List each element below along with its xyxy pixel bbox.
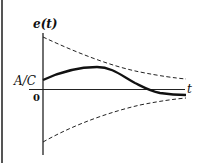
x-axis-label: t: [187, 82, 192, 96]
diagram-frame: e(t) A/C 0 t: [0, 0, 205, 163]
lower-envelope-curve: [43, 98, 186, 142]
response-curve: [43, 67, 186, 95]
y-axis-label: e(t): [33, 17, 58, 31]
origin-label: 0: [33, 92, 40, 103]
y-tick-label: A/C: [13, 74, 36, 88]
plot: e(t) A/C 0 t: [0, 0, 205, 163]
